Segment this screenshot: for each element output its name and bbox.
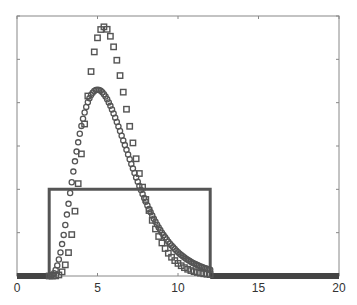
square-marker	[124, 107, 129, 112]
square-marker	[108, 34, 113, 39]
square-marker	[75, 181, 80, 186]
circle-marker	[64, 212, 69, 217]
square-marker	[88, 69, 93, 74]
x-tick-label: 20	[332, 281, 346, 295]
square-marker	[159, 240, 164, 245]
circle-marker	[58, 250, 63, 255]
tick-labels: 05101520	[14, 281, 346, 295]
circle-marker	[71, 169, 76, 174]
circle-marker	[77, 131, 82, 136]
x-tick-label: 10	[171, 281, 185, 295]
square-marker	[69, 232, 74, 237]
square-marker	[133, 156, 138, 161]
square-marker	[72, 208, 77, 213]
square-marker	[111, 44, 116, 49]
square-marker	[121, 89, 126, 94]
circle-marker	[59, 242, 64, 247]
square-marker	[127, 124, 132, 129]
circle-marker	[61, 232, 66, 237]
x-tick-label: 15	[252, 281, 266, 295]
square-marker	[130, 140, 135, 145]
square-marker	[117, 73, 122, 78]
square-marker	[95, 35, 100, 40]
series-layer	[17, 24, 339, 279]
circle-marker	[66, 201, 71, 206]
x-tick-label: 5	[94, 281, 101, 295]
circle-marker	[68, 190, 73, 195]
circle-marker	[82, 110, 87, 115]
square-marker	[63, 262, 68, 267]
square-marker	[92, 49, 97, 54]
circle-marker	[76, 140, 81, 145]
square-marker	[66, 250, 71, 255]
circle-marker	[56, 257, 61, 262]
x-tick-label: 0	[14, 281, 21, 295]
square-marker	[114, 58, 119, 63]
circle-marker	[72, 159, 77, 164]
circle-marker	[63, 222, 68, 227]
circle-marker	[69, 180, 74, 185]
chart: 05101520	[0, 0, 357, 305]
